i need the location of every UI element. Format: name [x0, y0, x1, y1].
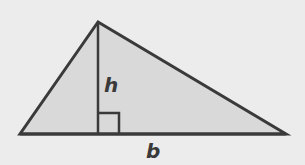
triangle-shape: [20, 22, 286, 134]
height-label: h: [104, 75, 118, 95]
triangle-diagram: h b: [0, 0, 305, 165]
base-label: b: [146, 141, 160, 161]
